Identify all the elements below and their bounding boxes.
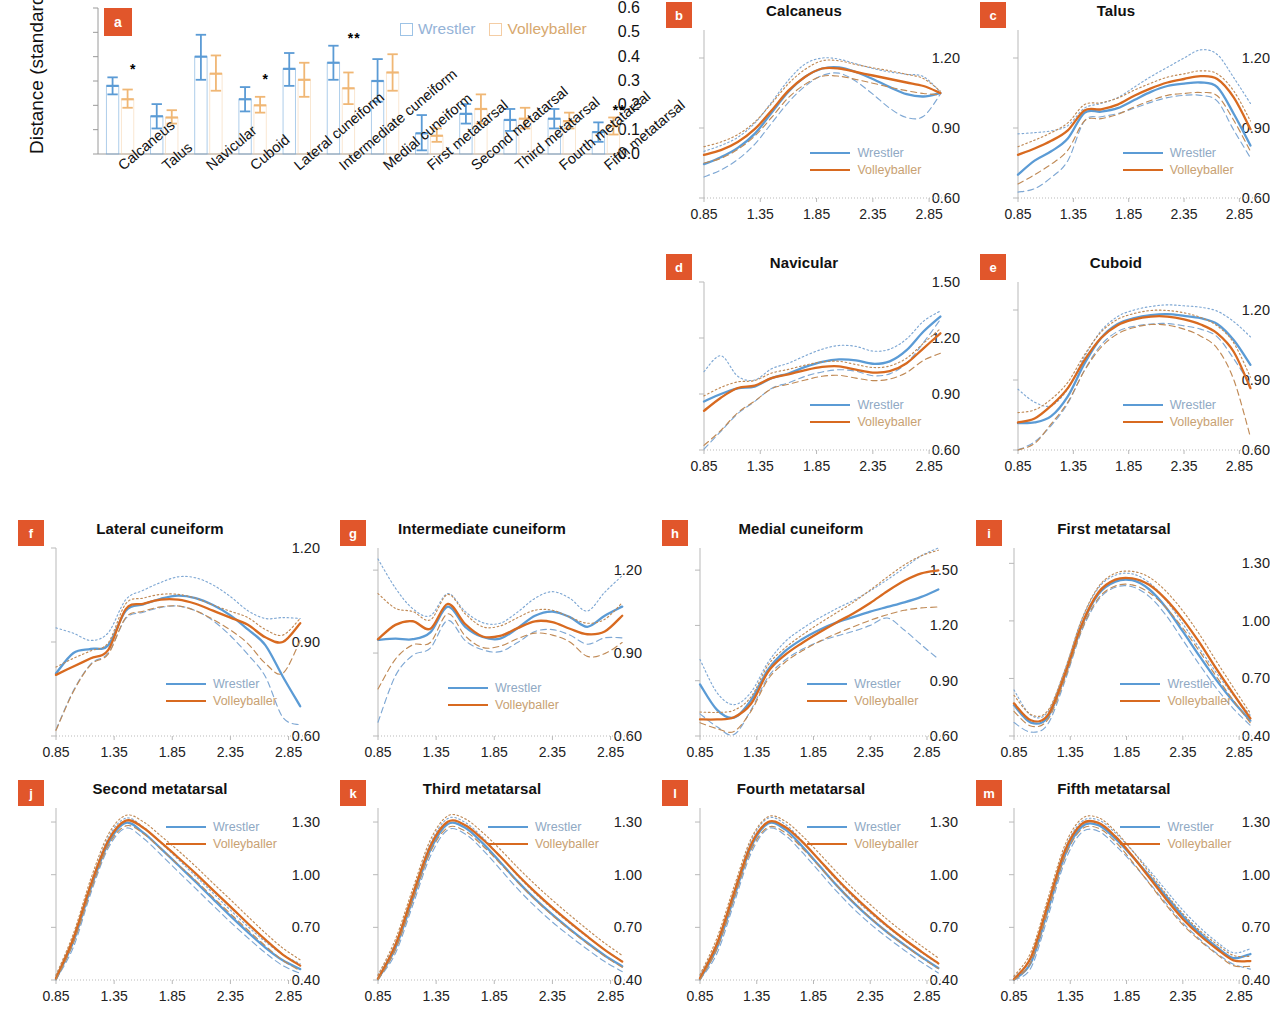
- panel-letter-badge-k: k: [340, 780, 366, 806]
- panel-d-line-chart: Naviculard1.501.200.900.600.851.351.852.…: [648, 252, 960, 484]
- series-line-volleyballer-upper-ci: [56, 594, 300, 667]
- legend-row-wrestler: Wrestler: [807, 676, 918, 693]
- legend-row-volleyballer: Volleyballer: [1120, 835, 1231, 852]
- legend-label-wrestler: Wrestler: [1167, 820, 1213, 834]
- legend-line-volleyballer: [488, 843, 528, 845]
- panel-m-legend: WrestlerVolleyballer: [1120, 818, 1231, 852]
- panel-g-legend: WrestlerVolleyballer: [448, 680, 559, 714]
- series-line-wrestler-upper-ci: [378, 559, 622, 624]
- legend-label-volleyballer: Volleyballer: [1170, 163, 1234, 177]
- panel-k-legend: WrestlerVolleyballer: [488, 818, 599, 852]
- legend-label-wrestler: Wrestler: [1170, 146, 1216, 160]
- panel-letter-badge-e: e: [980, 254, 1006, 280]
- legend-line-volleyballer: [810, 421, 850, 423]
- legend-label-volleyballer: Volleyballer: [1170, 415, 1234, 429]
- series-line-volleyballer-upper-ci: [704, 60, 940, 147]
- legend-line-wrestler: [448, 687, 488, 689]
- legend-label-wrestler: Wrestler: [495, 681, 541, 695]
- panel-letter-badge-b: b: [666, 2, 692, 28]
- legend-row-wrestler: Wrestler: [488, 818, 599, 835]
- panel-a-bar-wrestler: [106, 77, 118, 154]
- legend-label-wrestler: Wrestler: [213, 820, 259, 834]
- panel-k-plot-area: [322, 778, 642, 1014]
- legend-line-volleyballer: [807, 700, 847, 702]
- panel-letter-badge-l: l: [662, 780, 688, 806]
- legend-label-wrestler: Wrestler: [854, 820, 900, 834]
- series-line-volleyballer: [378, 604, 622, 639]
- panel-a-bar-wrestler: [195, 35, 207, 154]
- legend-row-wrestler: Wrestler: [166, 818, 277, 835]
- series-line-volleyballer-upper-ci: [1018, 71, 1250, 147]
- legend-label-volleyballer: Volleyballer: [1167, 837, 1231, 851]
- legend-row-wrestler: Wrestler: [166, 676, 277, 693]
- series-line-wrestler-lower-ci: [56, 606, 300, 730]
- series-line-volleyballer: [56, 599, 300, 675]
- legend-row-wrestler: Wrestler: [810, 144, 921, 161]
- legend-label-wrestler: Wrestler: [1167, 677, 1213, 691]
- panel-letter-badge-j: j: [18, 780, 44, 806]
- series-line-volleyballer-lower-ci: [56, 606, 300, 731]
- panel-c-line-chart: Talusc1.200.900.600.851.351.852.352.85Wr…: [962, 0, 1270, 232]
- panel-letter-badge-a: a: [104, 8, 132, 36]
- panel-c-legend: WrestlerVolleyballer: [1123, 144, 1234, 178]
- panel-letter-badge-c: c: [980, 2, 1006, 28]
- legend-row-wrestler: Wrestler: [1120, 818, 1231, 835]
- legend-line-volleyballer: [166, 700, 206, 702]
- legend-label-wrestler: Wrestler: [857, 146, 903, 160]
- legend-label-wrestler: Wrestler: [1170, 398, 1216, 412]
- legend-line-wrestler: [488, 826, 528, 828]
- legend-line-wrestler: [807, 683, 847, 685]
- legend-row-volleyballer: Volleyballer: [1120, 693, 1231, 710]
- legend-line-wrestler: [807, 826, 847, 828]
- series-line-wrestler-upper-ci: [56, 576, 300, 640]
- legend-line-volleyballer: [1123, 169, 1163, 171]
- panel-letter-badge-h: h: [662, 520, 688, 546]
- legend-row-wrestler: Wrestler: [448, 680, 559, 697]
- legend-label-volleyballer: Volleyballer: [535, 837, 599, 851]
- legend-row-volleyballer: Volleyballer: [1123, 161, 1234, 178]
- legend-row-volleyballer: Volleyballer: [166, 693, 277, 710]
- significance-marker: **: [348, 30, 361, 46]
- legend-line-volleyballer: [166, 843, 206, 845]
- panel-b-legend: WrestlerVolleyballer: [810, 144, 921, 178]
- legend-line-wrestler: [166, 683, 206, 685]
- series-line-wrestler-lower-ci: [1018, 323, 1250, 450]
- legend-line-volleyballer: [1120, 843, 1160, 845]
- legend-row-volleyballer: Volleyballer: [807, 693, 918, 710]
- series-line-wrestler-upper-ci: [1018, 50, 1250, 134]
- legend-label-volleyballer: Volleyballer: [854, 837, 918, 851]
- panel-h-legend: WrestlerVolleyballer: [807, 676, 918, 710]
- legend-label-volleyballer: Volleyballer: [854, 694, 918, 708]
- legend-row-wrestler: Wrestler: [1123, 396, 1234, 413]
- legend-label-volleyballer: Volleyballer: [857, 415, 921, 429]
- panel-f-legend: WrestlerVolleyballer: [166, 676, 277, 710]
- panel-letter-badge-m: m: [976, 780, 1002, 806]
- panel-letter-badge-i: i: [976, 520, 1002, 546]
- panel-k-line-chart: Third metatarsalk1.301.000.700.400.851.3…: [322, 778, 642, 1014]
- legend-label-wrestler: Wrestler: [854, 677, 900, 691]
- legend-line-wrestler: [1123, 404, 1163, 406]
- panel-a-bar-volleyballer: [298, 63, 310, 154]
- legend-line-volleyballer: [807, 843, 847, 845]
- panel-h-line-chart: Medial cuneiformh1.501.200.900.600.851.3…: [644, 518, 958, 770]
- panel-j-plot-area: [0, 778, 320, 1014]
- significance-marker: *: [263, 71, 269, 87]
- panel-j-legend: WrestlerVolleyballer: [166, 818, 277, 852]
- panel-j-line-chart: Second metatarsalj1.301.000.700.400.851.…: [0, 778, 320, 1014]
- panel-d-plot-area: [648, 252, 960, 484]
- legend-row-volleyballer: Volleyballer: [810, 161, 921, 178]
- panel-letter-badge-g: g: [340, 520, 366, 546]
- panel-e-legend: WrestlerVolleyballer: [1123, 396, 1234, 430]
- panel-l-line-chart: Fourth metatarsall1.301.000.700.400.851.…: [644, 778, 958, 1014]
- panel-f-line-chart: Lateral cuneiformf1.200.900.600.851.351.…: [0, 518, 320, 770]
- legend-row-wrestler: Wrestler: [810, 396, 921, 413]
- legend-label-volleyballer: Volleyballer: [857, 163, 921, 177]
- legend-line-wrestler: [1123, 152, 1163, 154]
- legend-row-volleyballer: Volleyballer: [166, 835, 277, 852]
- series-line-wrestler-upper-ci: [704, 58, 940, 152]
- panel-i-line-chart: First metatarsali1.301.000.700.400.851.3…: [958, 518, 1270, 770]
- panel-a-bar-volleyballer: [386, 54, 398, 154]
- legend-line-volleyballer: [1120, 700, 1160, 702]
- legend-row-volleyballer: Volleyballer: [488, 835, 599, 852]
- legend-row-wrestler: Wrestler: [1123, 144, 1234, 161]
